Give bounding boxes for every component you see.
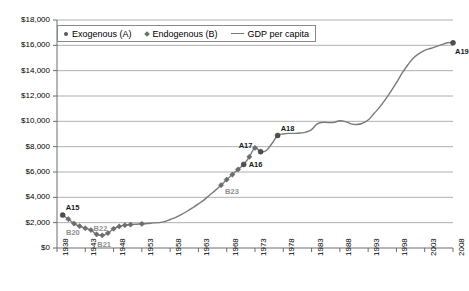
x-axis-tick-label: 2003: [429, 238, 438, 256]
x-axis-tick-label: 1948: [118, 238, 127, 256]
x-axis-tick-label: 1938: [61, 238, 70, 256]
y-axis-tick-label: $2,000: [0, 218, 50, 227]
legend-label-gdp: GDP per capita: [248, 29, 309, 39]
x-axis-tick-label: 1978: [287, 238, 296, 256]
y-axis-tick-label: $8,000: [0, 142, 50, 151]
annotation-a19: A19: [455, 47, 469, 56]
legend-label-exogenous: Exogenous (A): [72, 29, 132, 39]
annotation-b21: B21: [97, 240, 111, 249]
annotation-a18: A18: [281, 124, 295, 133]
x-axis-tick-label: 2008: [457, 238, 466, 256]
x-axis-tick-label: 1963: [202, 238, 211, 256]
diamond-icon: [144, 31, 150, 37]
legend-label-endogenous: Endogenous (B): [153, 29, 218, 39]
x-axis-tick-label: 1973: [259, 238, 268, 256]
y-axis-tick-label: $12,000: [0, 91, 50, 100]
gdp-per-capita-line: [63, 43, 453, 236]
y-axis-ticks: [53, 20, 57, 248]
y-axis-tick-label: $14,000: [0, 66, 50, 75]
y-axis-tick-label: $0: [0, 243, 50, 252]
line-swatch-icon: [231, 33, 244, 34]
annotation-a17: A17: [239, 141, 253, 150]
x-axis-tick-label: 1953: [146, 238, 155, 256]
x-axis-tick-label: 1988: [344, 238, 353, 256]
y-axis-tick-label: $6,000: [0, 167, 50, 176]
data-point-markers: [60, 40, 455, 238]
x-axis-tick-label: 1993: [372, 238, 381, 256]
annotation-b20: B20: [66, 228, 80, 237]
annotation-a16: A16: [249, 160, 263, 169]
x-axis-tick-label: 1983: [316, 238, 325, 256]
x-axis-tick-label: 1968: [231, 238, 240, 256]
y-axis-tick-label: $4,000: [0, 192, 50, 201]
round-dot-icon: [64, 32, 68, 36]
x-axis-tick-label: 1958: [174, 238, 183, 256]
y-axis-tick-label: $18,000: [0, 15, 50, 24]
gridlines: [57, 20, 453, 223]
y-axis-tick-label: $16,000: [0, 40, 50, 49]
legend-item-gdp-line: GDP per capita: [231, 29, 309, 39]
annotation-b23: B23: [225, 187, 239, 196]
x-axis-tick-label: 1998: [400, 238, 409, 256]
y-axis-tick-label: $10,000: [0, 116, 50, 125]
chart-legend: Exogenous (A) Endogenous (B) GDP per cap…: [57, 25, 316, 42]
legend-item-endogenous: Endogenous (B): [145, 29, 218, 39]
annotation-a15: A15: [66, 203, 80, 212]
annotation-b22: B22: [94, 224, 108, 233]
x-axis-ticks: [57, 248, 453, 252]
legend-item-exogenous: Exogenous (A): [64, 29, 132, 39]
